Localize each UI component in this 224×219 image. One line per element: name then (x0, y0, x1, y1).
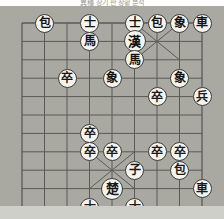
piece-glyph: 漢 (128, 35, 141, 48)
piece-glyph: 包 (151, 17, 163, 29)
piece-glyph: 卒 (84, 127, 96, 139)
piece-glyph: 象 (174, 17, 186, 29)
piece-glyph: 車 (196, 183, 208, 195)
piece-glyph: 兵 (196, 91, 208, 103)
red-soldier-b[interactable]: 卒 (148, 87, 167, 106)
piece-glyph: 楚 (106, 182, 119, 195)
piece-glyph: 卒 (151, 91, 163, 103)
black-cannon-right[interactable]: 包 (148, 14, 167, 33)
red-king[interactable]: 楚 (101, 178, 123, 200)
black-guard-left[interactable]: 士 (80, 14, 99, 33)
piece-glyph: 卒 (106, 146, 118, 158)
red-soldier-c[interactable]: 兵 (193, 87, 212, 106)
piece-glyph: 卒 (174, 146, 186, 158)
piece-glyph: 包 (39, 17, 51, 29)
black-elephant[interactable]: 象 (170, 14, 189, 33)
piece-glyph: 馬 (84, 35, 96, 47)
board-grid (0, 6, 224, 206)
piece-glyph: 卒 (84, 146, 96, 158)
piece-glyph: 子 (129, 164, 141, 176)
piece-glyph: 車 (196, 17, 208, 29)
red-soldier-f[interactable]: 卒 (103, 142, 122, 161)
piece-glyph: 馬 (129, 54, 141, 66)
piece-glyph: 士 (129, 17, 141, 29)
red-soldier-g[interactable]: 卒 (148, 142, 167, 161)
board-frame: 包士馬士包象車漢馬卒象象卒兵卒卒卒卒卒子包楚車士士 (0, 6, 224, 206)
janggi-board[interactable]: 包士馬士包象車漢馬卒象象卒兵卒卒卒卒卒子包楚車士士 (0, 6, 224, 206)
black-king[interactable]: 漢 (124, 30, 146, 52)
black-elephant-mid[interactable]: 象 (103, 69, 122, 88)
footer-strip (0, 206, 224, 219)
piece-glyph: 象 (174, 72, 186, 84)
piece-glyph: 卒 (61, 72, 73, 84)
screenshot-root: 異種 장기 판 상황 분석 包士馬士包象車漢馬卒象象卒兵卒卒卒卒卒子包楚車士士 (0, 0, 224, 219)
black-elephant-far[interactable]: 象 (170, 69, 189, 88)
piece-glyph: 象 (106, 72, 118, 84)
piece-glyph: 士 (84, 17, 96, 29)
piece-glyph: 包 (174, 164, 186, 176)
black-horse-left[interactable]: 馬 (80, 32, 99, 51)
red-soldier-a[interactable]: 卒 (58, 69, 77, 88)
black-cannon-left[interactable]: 包 (35, 14, 54, 33)
red-chariot[interactable]: 車 (193, 179, 212, 198)
red-cannon-left[interactable]: 子 (125, 161, 144, 180)
piece-glyph: 卒 (151, 146, 163, 158)
red-soldier-d[interactable]: 卒 (80, 124, 99, 143)
red-cannon-right[interactable]: 包 (170, 161, 189, 180)
black-chariot-right[interactable]: 車 (193, 14, 212, 33)
